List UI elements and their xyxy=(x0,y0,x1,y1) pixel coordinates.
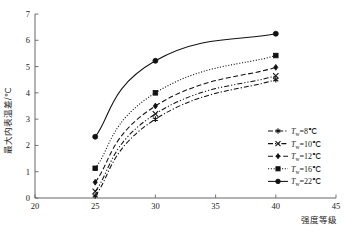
legend-item-tw16[interactable]: Tw=16℃ xyxy=(268,165,321,175)
square-marker xyxy=(274,53,279,58)
y-tick-label: 0 xyxy=(26,193,30,203)
chart-container: 202530354045 01234567 Tw=8℃Tw=10℃Tw=12℃T… xyxy=(0,0,363,235)
cross-marker xyxy=(153,111,158,116)
legend-label: Tw=10℃ xyxy=(291,140,321,150)
circle-marker xyxy=(276,179,281,184)
legend-item-tw12[interactable]: Tw=12℃ xyxy=(268,152,321,162)
y-tick-label: 2 xyxy=(26,140,30,150)
y-tick-label: 5 xyxy=(26,62,30,72)
series-group xyxy=(93,31,279,199)
y-tick-label: 3 xyxy=(26,114,30,124)
x-tick-label: 35 xyxy=(211,201,220,211)
series-tw8 xyxy=(93,77,279,199)
legend-label: Tw=22℃ xyxy=(291,177,321,187)
circle-marker xyxy=(93,134,98,139)
series-tw12 xyxy=(93,64,278,185)
series-tw16 xyxy=(93,53,278,170)
legend-label: Tw=8℃ xyxy=(291,127,317,137)
y-tick-label: 1 xyxy=(26,167,30,177)
x-tick-label: 30 xyxy=(151,201,160,211)
line-chart: 202530354045 01234567 Tw=8℃Tw=10℃Tw=12℃T… xyxy=(0,0,363,235)
y-tick-label: 6 xyxy=(26,35,30,45)
y-axis-label: 最大内表温差/℃ xyxy=(3,87,13,154)
legend-item-tw8[interactable]: Tw=8℃ xyxy=(268,127,317,137)
square-marker xyxy=(276,167,280,171)
series-line xyxy=(95,56,276,169)
asterisk-marker xyxy=(153,116,158,122)
x-tick-label: 20 xyxy=(31,201,40,211)
x-tick-label: 40 xyxy=(272,201,281,211)
x-tick-label: 45 xyxy=(332,201,341,211)
series-tw22 xyxy=(93,31,279,139)
x-axis-ticks: 202530354045 xyxy=(31,195,341,212)
series-line xyxy=(95,67,276,182)
diamond-marker xyxy=(153,103,157,109)
legend-item-tw22[interactable]: Tw=22℃ xyxy=(268,177,321,187)
diamond-marker xyxy=(276,154,280,159)
square-marker xyxy=(93,166,98,171)
circle-marker xyxy=(153,58,158,63)
chart-legend: Tw=8℃Tw=10℃Tw=12℃Tw=16℃Tw=22℃ xyxy=(268,127,321,187)
legend-label: Tw=16℃ xyxy=(291,165,321,175)
square-marker xyxy=(153,91,158,96)
cross-marker xyxy=(276,141,281,146)
series-line xyxy=(95,34,276,137)
x-axis-label: 强度等级 xyxy=(301,215,337,225)
legend-item-tw10[interactable]: Tw=10℃ xyxy=(268,140,321,150)
series-line xyxy=(95,80,276,196)
series-line xyxy=(95,76,276,192)
legend-label: Tw=12℃ xyxy=(291,152,321,162)
circle-marker xyxy=(273,31,278,36)
x-tick-label: 25 xyxy=(91,201,100,211)
y-tick-label: 7 xyxy=(26,9,30,19)
y-tick-label: 4 xyxy=(26,88,31,98)
y-axis-ticks: 01234567 xyxy=(26,9,39,203)
diamond-marker xyxy=(274,64,278,70)
